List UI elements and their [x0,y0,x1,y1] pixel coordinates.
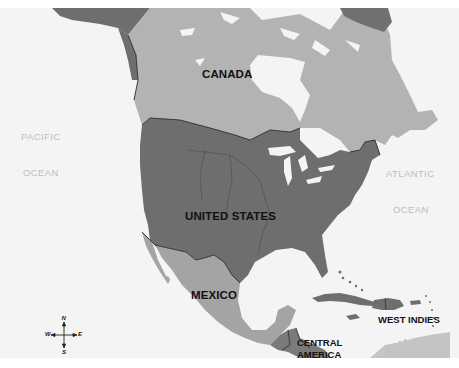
label-atlantic-ocean: OCEAN [393,205,429,215]
label-central-america-line2: AMERICA [297,350,341,360]
compass-w: W [45,331,51,337]
label-united-states: UNITED STATES [185,211,276,223]
label-pacific-ocean: OCEAN [23,168,59,178]
north-america-map [0,0,459,368]
label-mexico: MEXICO [191,290,237,302]
label-west-indies: WEST INDIES [378,315,440,325]
compass-e: E [78,331,82,337]
compass-n: N [62,315,66,321]
label-atlantic: ATLANTIC [386,169,434,179]
label-canada: CANADA [202,69,252,81]
label-pacific: PACIFIC [21,132,61,142]
label-central-america-line1: CENTRAL [297,338,342,348]
compass-s: S [62,349,66,355]
